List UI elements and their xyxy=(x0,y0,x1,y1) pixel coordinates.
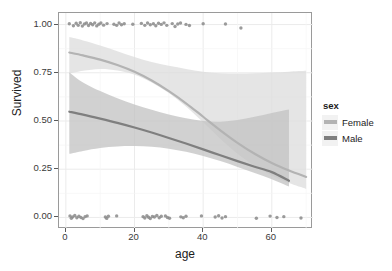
plot-canvas xyxy=(59,13,313,229)
x-tick-mark xyxy=(202,228,203,232)
legend-item-female[interactable]: Female xyxy=(322,114,390,130)
plot-panel xyxy=(58,12,312,228)
y-tick-mark xyxy=(54,216,58,217)
y-tick-mark xyxy=(54,120,58,121)
legend-key-swatch xyxy=(322,131,338,146)
legend: sex FemaleMale xyxy=(322,100,390,146)
legend-color-bar xyxy=(324,120,337,124)
y-tick-label: 1.00 xyxy=(6,19,52,29)
y-tick-mark xyxy=(54,24,58,25)
y-tick-label: 0.25 xyxy=(6,163,52,173)
x-axis-title: age xyxy=(58,247,312,261)
legend-items: FemaleMale xyxy=(322,114,390,146)
x-tick-label: 20 xyxy=(128,231,139,242)
y-tick-mark xyxy=(54,72,58,73)
legend-key-swatch xyxy=(322,115,338,130)
x-tick-mark xyxy=(134,228,135,232)
x-tick-label: 60 xyxy=(266,231,277,242)
x-tick-mark xyxy=(271,228,272,232)
legend-title: sex xyxy=(323,100,390,111)
y-tick-label: 0.00 xyxy=(6,211,52,221)
x-tick-label: 40 xyxy=(197,231,208,242)
x-tick-label: 0 xyxy=(62,231,67,242)
chart-figure: 0.000.250.500.751.00 0204060 Survived ag… xyxy=(0,0,392,271)
legend-color-bar xyxy=(324,136,337,140)
y-tick-mark xyxy=(54,168,58,169)
x-tick-mark xyxy=(65,228,66,232)
legend-item-male[interactable]: Male xyxy=(322,130,390,146)
legend-label: Female xyxy=(342,117,374,128)
y-axis-title: Survived xyxy=(10,33,24,153)
x-axis-tick-labels: 0204060 xyxy=(0,231,392,247)
legend-label: Male xyxy=(342,133,363,144)
